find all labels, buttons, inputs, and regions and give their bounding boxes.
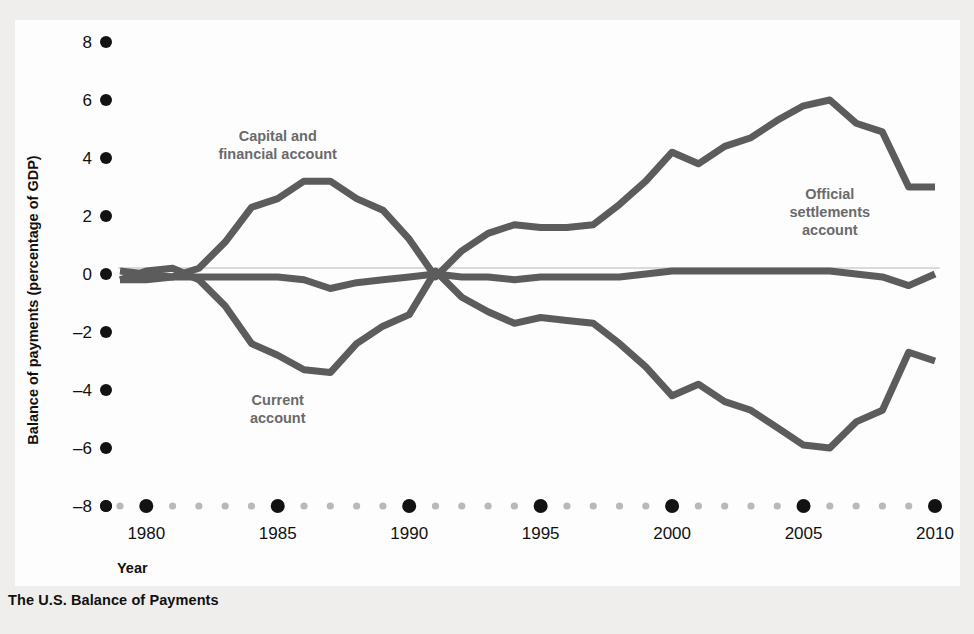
y-tick-label: –4 <box>73 381 92 400</box>
x-tick-dot-minor <box>774 502 781 509</box>
series-label-line: Capital and <box>239 128 317 144</box>
x-tick-label: 1980 <box>127 524 165 543</box>
y-tick-dot <box>100 268 112 280</box>
x-tick-label: 1985 <box>259 524 297 543</box>
x-tick-dot-minor <box>432 502 439 509</box>
series-label-line: financial account <box>219 146 338 162</box>
series-label-line: account <box>250 410 306 426</box>
y-tick-label: –8 <box>73 497 92 516</box>
y-tick-label: 2 <box>83 207 92 226</box>
x-tick-dot-minor <box>563 502 570 509</box>
x-axis-ticks: 1980198519901995200020052010 <box>127 524 954 543</box>
y-axis-title-text: Balance of payments (percentage of GDP) <box>25 155 41 444</box>
series-label-official-settlements-account: Officialsettlementsaccount <box>790 186 871 238</box>
x-tick-dot-minor <box>642 502 649 509</box>
series-label-line: settlements <box>790 204 871 220</box>
series-label-current-account: Currentaccount <box>250 392 306 426</box>
x-tick-dot-minor <box>616 502 623 509</box>
x-tick-dot-minor <box>905 502 912 509</box>
y-tick-label: –6 <box>73 439 92 458</box>
x-tick-dot-minor <box>853 502 860 509</box>
x-tick-label: 2000 <box>653 524 691 543</box>
x-tick-dot-minor <box>511 502 518 509</box>
x-tick-dot-minor <box>484 502 491 509</box>
x-tick-label: 2005 <box>785 524 823 543</box>
x-tick-dot-minor <box>353 502 360 509</box>
x-tick-dot-major <box>271 499 285 513</box>
x-tick-dot-major <box>534 499 548 513</box>
x-axis-title: Year <box>117 560 148 576</box>
series-line-current-account <box>120 268 935 448</box>
x-tick-dot-major <box>665 499 679 513</box>
y-axis-title: Balance of payments (percentage of GDP) <box>25 155 41 444</box>
y-tick-label: 0 <box>83 265 92 284</box>
x-tick-dot-major <box>402 499 416 513</box>
series-label-line: Official <box>805 186 854 202</box>
y-tick-dot <box>100 152 112 164</box>
y-tick-dot <box>100 326 112 338</box>
series-label-capital-and-financial-account: Capital andfinancial account <box>219 128 338 162</box>
y-tick-label: 8 <box>83 33 92 52</box>
x-tick-label: 2010 <box>916 524 954 543</box>
series-line-official-settlements-account <box>120 271 935 288</box>
x-tick-dot-major <box>139 499 153 513</box>
x-tick-label: 1995 <box>522 524 560 543</box>
y-axis-ticks: –8–6–4–202468 <box>73 33 112 516</box>
balance-of-payments-chart: Balance of payments (percentage of GDP) … <box>0 0 974 634</box>
x-tick-dot-minor <box>458 502 465 509</box>
y-tick-label: –2 <box>73 323 92 342</box>
y-tick-dot <box>100 384 112 396</box>
x-tick-dot-minor <box>879 502 886 509</box>
x-tick-dot-minor <box>695 502 702 509</box>
x-tick-dot-minor <box>300 502 307 509</box>
x-tick-dot-major <box>797 499 811 513</box>
x-tick-dot-minor <box>379 502 386 509</box>
series-label-line: account <box>802 222 858 238</box>
x-tick-dot-minor <box>721 502 728 509</box>
x-tick-dot-minor <box>327 502 334 509</box>
y-tick-dot <box>100 36 112 48</box>
y-tick-label: 4 <box>83 149 92 168</box>
x-axis-origin-dot <box>100 500 112 512</box>
figure-caption: The U.S. Balance of Payments <box>8 592 219 608</box>
y-tick-dot <box>100 442 112 454</box>
x-tick-dot-minor <box>590 502 597 509</box>
x-tick-dot-minor <box>826 502 833 509</box>
x-tick-label: 1990 <box>390 524 428 543</box>
x-tick-dot-minor <box>747 502 754 509</box>
y-tick-dot <box>100 94 112 106</box>
x-tick-dot-minor <box>169 502 176 509</box>
x-tick-dot-minor <box>248 502 255 509</box>
x-tick-dot-minor <box>222 502 229 509</box>
x-tick-dot-major <box>928 499 942 513</box>
y-tick-dot <box>100 210 112 222</box>
x-tick-dot-minor <box>116 502 123 509</box>
x-axis-dot-rule <box>100 499 942 513</box>
y-tick-label: 6 <box>83 91 92 110</box>
series-label-line: Current <box>252 392 305 408</box>
x-tick-dot-minor <box>195 502 202 509</box>
